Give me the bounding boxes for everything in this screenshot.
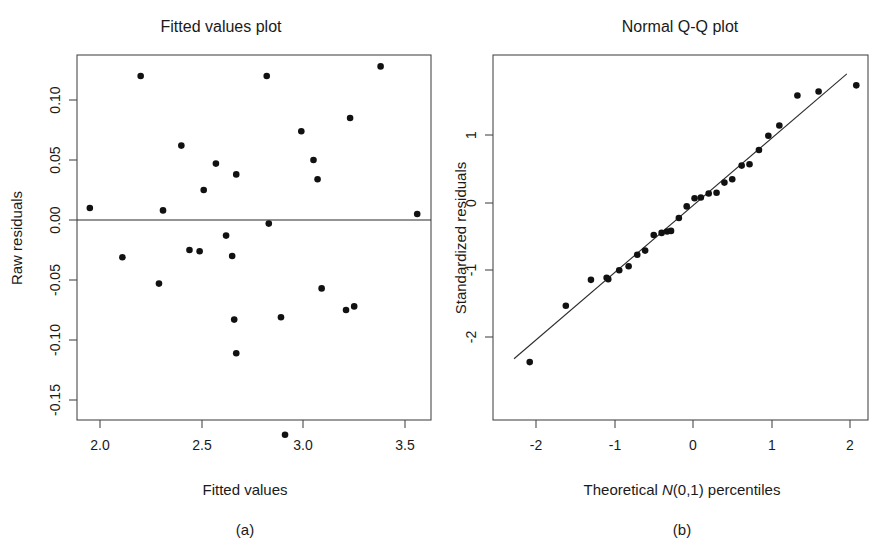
panel-b-caption: (b) <box>673 521 691 538</box>
data-point <box>263 73 270 80</box>
panel-a-data-points <box>87 63 421 438</box>
panel-b-xtick-label: -2 <box>530 437 543 453</box>
data-point <box>776 122 783 129</box>
panel-b-xaxis-ticks <box>536 420 850 428</box>
panel-b-xtick-label: 1 <box>768 437 776 453</box>
data-point <box>347 115 354 122</box>
data-point <box>526 359 533 366</box>
data-point <box>318 285 325 292</box>
data-point <box>756 147 763 154</box>
panel-a-xtick-label: 2.5 <box>192 437 212 453</box>
panel-a-yaxis-ticklabels: 0.10 0.05 0.00 -0.05 -0.10 -0.15 <box>47 86 63 416</box>
panel-a-xlabel: Fitted values <box>202 481 287 498</box>
panel-a-ytick-label: -0.15 <box>47 384 63 416</box>
data-point <box>186 247 193 254</box>
data-point <box>223 232 230 239</box>
data-point <box>119 254 126 261</box>
panel-b-ytick-label: -1 <box>463 264 479 277</box>
data-point <box>738 162 745 169</box>
panel-a-caption: (a) <box>236 521 254 538</box>
data-point <box>658 230 665 237</box>
panel-a-ytick-label: -0.10 <box>47 324 63 356</box>
panel-a-ytick-label: -0.05 <box>47 264 63 296</box>
data-point <box>414 211 421 218</box>
data-point <box>178 142 185 149</box>
panel-b-xlabel: Theoretical N(0,1) percentiles <box>584 481 781 498</box>
panel-a-xtick-label: 3.5 <box>395 437 415 453</box>
data-point <box>642 247 649 254</box>
data-point <box>278 314 285 321</box>
data-point <box>815 88 822 95</box>
data-point <box>196 248 203 255</box>
data-point <box>156 280 163 287</box>
panel-b-xtick-label: 2 <box>846 437 854 453</box>
data-point <box>282 432 289 439</box>
data-point <box>605 276 612 283</box>
panel-b-ylabel: Standardized residuals <box>452 162 469 315</box>
panel-a-ytick-label: 0.05 <box>47 146 63 173</box>
data-point <box>668 228 675 235</box>
panel-b-ytick-label: -2 <box>463 331 479 344</box>
panel-b-ytick-label: 0 <box>463 199 479 207</box>
data-point <box>351 303 358 310</box>
data-point <box>213 160 220 167</box>
panel-a-yaxis-ticks <box>69 100 77 400</box>
panel-a-xaxis-ticklabels: 2.0 2.5 3.0 3.5 <box>90 437 415 453</box>
panel-b-xtick-label: 0 <box>689 437 697 453</box>
data-point <box>691 195 698 202</box>
panel-a-ylabel: Raw residuals <box>8 191 25 285</box>
panel-b-ytick-label: 1 <box>463 131 479 139</box>
panel-b-xlabel-italic: N <box>662 481 673 498</box>
panel-a-plot-frame <box>77 55 431 420</box>
panel-a-title: Fitted values plot <box>161 18 283 35</box>
data-point <box>229 253 236 260</box>
data-point <box>233 350 240 357</box>
panel-a-xtick-label: 2.0 <box>90 437 110 453</box>
data-point <box>721 179 728 186</box>
data-point <box>746 161 753 168</box>
data-point <box>634 251 641 258</box>
data-point <box>794 92 801 99</box>
figure-container: Fitted values plot Fitted values Raw res… <box>0 0 889 549</box>
panel-b-xlabel-part1: Theoretical <box>584 481 662 498</box>
data-point <box>616 267 623 274</box>
data-point <box>853 82 860 89</box>
data-point <box>231 316 238 323</box>
data-point <box>265 220 272 227</box>
panel-a-svg: Fitted values plot Fitted values Raw res… <box>0 0 445 549</box>
data-point <box>233 171 240 178</box>
data-point <box>765 132 772 139</box>
panel-b-svg: Normal Q-Q plot Theoretical N(0,1) perce… <box>444 0 889 549</box>
data-point <box>705 190 712 197</box>
data-point <box>729 176 736 183</box>
panel-a-ytick-label: 0.00 <box>47 206 63 233</box>
data-point <box>160 207 167 214</box>
panel-a-xaxis-ticks <box>100 420 405 428</box>
panel-a-ytick-label: 0.10 <box>47 86 63 113</box>
panel-b-data-points <box>526 82 859 365</box>
data-point <box>310 157 317 164</box>
data-point <box>588 277 595 284</box>
data-point <box>563 302 570 309</box>
data-point <box>650 232 657 239</box>
panel-b-title: Normal Q-Q plot <box>622 18 739 35</box>
panel-normal-qq-plot: Normal Q-Q plot Theoretical N(0,1) perce… <box>444 0 889 549</box>
panel-b-xaxis-ticklabels: -2 -1 0 1 2 <box>530 437 854 453</box>
panel-b-yaxis-ticks <box>485 135 493 337</box>
data-point <box>676 215 683 222</box>
data-point <box>314 176 321 183</box>
data-point <box>343 307 350 314</box>
panel-a-xtick-label: 3.0 <box>293 437 313 453</box>
panel-b-xlabel-part2: (0,1) percentiles <box>673 481 781 498</box>
panel-b-xtick-label: -1 <box>609 437 622 453</box>
data-point <box>377 63 384 70</box>
panel-b-plot-frame <box>493 55 868 420</box>
data-point <box>87 205 94 212</box>
data-point <box>200 187 207 194</box>
data-point <box>625 263 632 270</box>
data-point <box>713 190 720 197</box>
panel-fitted-values-plot: Fitted values plot Fitted values Raw res… <box>0 0 445 549</box>
data-point <box>298 128 305 135</box>
data-point <box>683 203 690 210</box>
data-point <box>698 194 705 201</box>
